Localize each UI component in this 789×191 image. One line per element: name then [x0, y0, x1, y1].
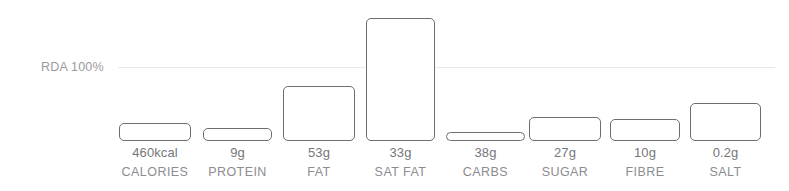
- bar-rect[interactable]: [446, 132, 525, 141]
- bar-group-fibre[interactable]: 10gFIBRE: [610, 0, 680, 191]
- bar-rect[interactable]: [203, 128, 272, 141]
- bar-value-label: 27g: [529, 145, 601, 160]
- nutrition-rda-bar-chart: RDA 100% 460kcalCALORIES9gPROTEIN53gFAT3…: [0, 0, 789, 191]
- bar-group-sugar[interactable]: 27gSUGAR: [529, 0, 601, 191]
- bar-category-label: FIBRE: [610, 165, 680, 179]
- bar-category-label: FAT: [283, 165, 355, 179]
- bar-group-calories[interactable]: 460kcalCALORIES: [119, 0, 191, 191]
- bar-series: 460kcalCALORIES9gPROTEIN53gFAT33gSAT FAT…: [0, 0, 789, 191]
- bar-group-fat[interactable]: 53gFAT: [283, 0, 355, 191]
- bar-rect[interactable]: [610, 119, 680, 141]
- bar-value-label: 38g: [446, 145, 525, 160]
- bar-category-label: CARBS: [446, 165, 525, 179]
- bar-category-label: CALORIES: [119, 165, 191, 179]
- bar-rect[interactable]: [366, 18, 435, 141]
- bar-value-label: 33g: [366, 145, 435, 160]
- bar-value-label: 460kcal: [119, 145, 191, 160]
- bar-value-label: 9g: [203, 145, 272, 160]
- bar-category-label: SUGAR: [529, 165, 601, 179]
- bar-value-label: 53g: [283, 145, 355, 160]
- bar-group-sat-fat[interactable]: 33gSAT FAT: [366, 0, 435, 191]
- bar-rect[interactable]: [119, 123, 191, 141]
- bar-rect[interactable]: [529, 117, 601, 141]
- bar-rect[interactable]: [690, 103, 761, 141]
- bar-category-label: SALT: [690, 165, 761, 179]
- bar-category-label: SAT FAT: [366, 165, 435, 179]
- bar-group-salt[interactable]: 0.2gSALT: [690, 0, 761, 191]
- bar-value-label: 10g: [610, 145, 680, 160]
- bar-value-label: 0.2g: [690, 145, 761, 160]
- bar-category-label: PROTEIN: [203, 165, 272, 179]
- bar-group-protein[interactable]: 9gPROTEIN: [203, 0, 272, 191]
- bar-rect[interactable]: [283, 86, 355, 141]
- bar-group-carbs[interactable]: 38gCARBS: [446, 0, 525, 191]
